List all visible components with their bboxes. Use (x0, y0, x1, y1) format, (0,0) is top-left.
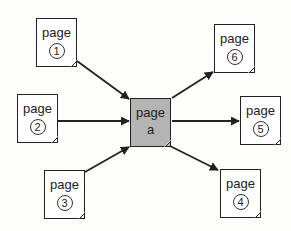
page-label: page (18, 102, 57, 116)
page-number-badge: 6 (227, 49, 243, 65)
page-label: page (131, 106, 170, 120)
arrow-a-to-6 (172, 72, 213, 98)
page-node-1: page 1 (36, 18, 77, 67)
page-label: page (45, 178, 84, 192)
folded-corner-icon (254, 211, 261, 218)
page-label: page (221, 177, 260, 191)
page-node-6: page 6 (214, 24, 255, 73)
page-label: page (241, 104, 280, 118)
arrow-1-to-a (77, 61, 129, 99)
folded-corner-icon (70, 60, 77, 67)
page-id-label: a (131, 123, 170, 137)
folded-corner-icon (51, 136, 58, 143)
page-number-badge: 2 (30, 119, 46, 135)
page-label: page (215, 32, 254, 46)
page-number-badge: 4 (233, 194, 249, 210)
folded-corner-icon (248, 66, 255, 73)
arrow-3-to-a (85, 147, 129, 172)
page-number-badge: 1 (49, 43, 65, 59)
page-node-2: page 2 (17, 94, 58, 143)
page-node-a: page a (130, 98, 171, 147)
page-node-4: page 4 (220, 169, 261, 218)
page-number-badge: 5 (253, 121, 269, 137)
page-node-3: page 3 (44, 170, 85, 219)
folded-corner-icon (274, 138, 281, 145)
folded-corner-icon (164, 140, 171, 147)
page-node-5: page 5 (240, 96, 281, 145)
arrow-a-to-4 (168, 145, 218, 170)
page-label: page (37, 26, 76, 40)
link-diagram: page 1 page 2 page 3 page a page 6 page … (0, 0, 291, 231)
folded-corner-icon (78, 212, 85, 219)
page-number-badge: 3 (57, 195, 73, 211)
